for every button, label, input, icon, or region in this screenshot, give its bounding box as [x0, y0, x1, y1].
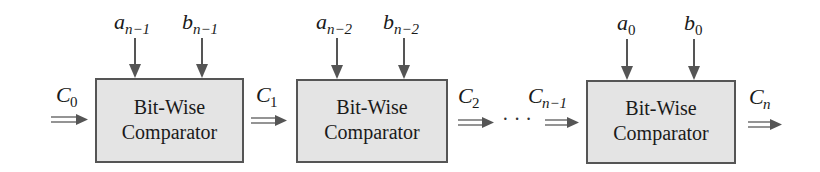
svg-text:2: 2	[472, 95, 480, 111]
input-a-arrow-1	[129, 38, 141, 78]
input-a-arrow-3	[621, 39, 633, 80]
comparator-chain-diagram: Bit-Wise Comparator a n−1 b n−1 Bit-Wise…	[0, 0, 820, 172]
input-b-arrow-3	[688, 39, 700, 80]
svg-text:n−1: n−1	[542, 95, 567, 111]
input-b-arrow-2	[398, 38, 410, 79]
comparator-2-label-line2: Comparator	[324, 121, 420, 144]
svg-text:n: n	[763, 96, 771, 112]
comparator-3-label-line1: Bit-Wise	[625, 97, 697, 119]
input-a-label-2: a n−2	[316, 9, 353, 37]
input-b-arrow-1	[196, 38, 208, 78]
carry-arrow-cn-1	[545, 117, 579, 128]
svg-text:a: a	[316, 9, 327, 34]
svg-text:C: C	[528, 83, 543, 108]
comparator-2-label-line1: Bit-Wise	[336, 96, 408, 118]
ellipsis: · · ·	[502, 108, 532, 130]
carry-arrow-cn	[748, 119, 782, 130]
svg-text:C: C	[458, 83, 473, 108]
carry-label-cn: C n	[749, 84, 771, 112]
svg-text:C: C	[56, 82, 71, 107]
svg-text:b: b	[684, 10, 695, 35]
input-a-label-1: a n−1	[114, 9, 150, 37]
svg-text:0: 0	[70, 94, 78, 110]
svg-text:0: 0	[628, 22, 636, 38]
svg-text:a: a	[617, 10, 628, 35]
carry-label-c1: C 1	[256, 82, 278, 110]
input-b-label-2: b n−2	[383, 9, 420, 37]
svg-text:0: 0	[695, 22, 703, 38]
carry-arrow-c2	[458, 117, 494, 128]
input-b-label-3: b 0	[684, 10, 703, 38]
svg-text:n−1: n−1	[193, 21, 218, 37]
carry-arrow-c1	[251, 115, 287, 126]
carry-label-cn-1: C n−1	[528, 83, 567, 111]
carry-label-c0: C 0	[56, 82, 78, 110]
carry-label-c2: C 2	[458, 83, 480, 111]
stage-1: Bit-Wise Comparator a n−1 b n−1	[96, 9, 243, 162]
svg-text:b: b	[182, 9, 193, 34]
svg-text:n−2: n−2	[327, 21, 353, 37]
comparator-1-label-line2: Comparator	[122, 121, 218, 144]
carry-arrow-c0	[51, 114, 88, 125]
svg-text:1: 1	[270, 94, 278, 110]
input-a-label-3: a 0	[617, 10, 636, 38]
input-b-label-1: b n−1	[182, 9, 218, 37]
stage-3: Bit-Wise Comparator a 0 b 0	[587, 10, 735, 163]
comparator-3-label-line2: Comparator	[613, 122, 709, 145]
svg-text:n−2: n−2	[394, 21, 420, 37]
comparator-1-label-line1: Bit-Wise	[134, 96, 206, 118]
svg-text:C: C	[256, 82, 271, 107]
svg-text:a: a	[114, 9, 125, 34]
svg-text:b: b	[383, 9, 394, 34]
svg-text:C: C	[749, 84, 764, 109]
svg-text:n−1: n−1	[125, 21, 150, 37]
stage-2: Bit-Wise Comparator a n−2 b n−2	[297, 9, 447, 162]
input-a-arrow-2	[331, 38, 343, 79]
